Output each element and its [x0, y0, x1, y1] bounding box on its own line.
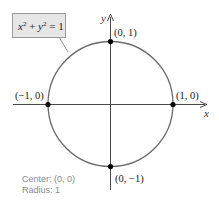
y-axis-label: y [100, 12, 106, 24]
callout-line [59, 37, 68, 52]
point-label-right: (1, 0) [176, 90, 199, 102]
point-right [170, 102, 175, 107]
point-label-bottom: (0, −1) [115, 173, 144, 185]
radius-info: Radius: 1 [22, 185, 60, 195]
point-bottom [108, 164, 113, 169]
point-left [45, 102, 50, 107]
point-label-top: (0, 1) [114, 27, 137, 39]
center-info: Center: (0, 0) [22, 174, 75, 184]
unit-circle-diagram: x2 + y2 = 1 y x (0, 1) (−1, 0) (1, 0) (0… [0, 0, 219, 202]
point-label-left: (−1, 0) [15, 90, 44, 102]
x-axis-label: x [203, 107, 209, 119]
point-top [108, 39, 113, 44]
